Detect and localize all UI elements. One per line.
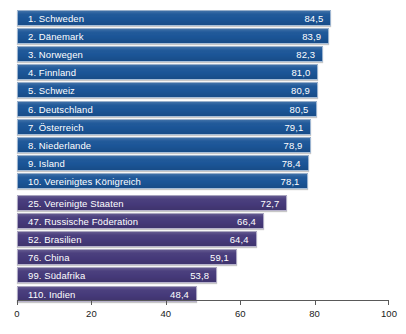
x-axis-tick-label: 0: [14, 308, 19, 319]
x-axis-tick: [17, 300, 18, 305]
bar-fill: 9. Island78,4: [17, 155, 309, 171]
bar-value-label: 78,9: [284, 138, 303, 153]
bar-category-label: 8. Niederlande: [28, 138, 91, 153]
x-axis-tick-label: 60: [235, 308, 246, 319]
bar-row[interactable]: 99. Südafrika53,8: [17, 267, 217, 283]
bar-fill: 8. Niederlande78,9: [17, 137, 311, 153]
bar-fill: 2. Dänemark83,9: [17, 28, 329, 44]
x-axis-tick: [315, 300, 316, 305]
bar-category-label: 2. Dänemark: [28, 29, 83, 44]
bar-row[interactable]: 7. Österreich79,1: [17, 119, 311, 135]
x-axis-line: [17, 300, 389, 301]
bar-category-label: 7. Österreich: [28, 120, 84, 135]
bar-row[interactable]: 52. Brasilien64,4: [17, 231, 257, 247]
bar-value-label: 66,4: [237, 214, 256, 229]
bar-category-label: 5. Schweiz: [28, 83, 75, 98]
bar-row[interactable]: 25. Vereinigte Staaten72,7: [17, 195, 287, 211]
x-axis-tick: [166, 300, 167, 305]
bar-value-label: 78,1: [281, 174, 300, 189]
bar-category-label: 10. Vereinigtes Königreich: [28, 174, 141, 189]
bar-value-label: 82,3: [296, 47, 315, 62]
bar-fill: 7. Österreich79,1: [17, 119, 311, 135]
bar-category-label: 52. Brasilien: [28, 232, 82, 247]
bar-fill: 5. Schweiz80,9: [17, 82, 318, 98]
bar-row[interactable]: 4. Finnland81,0: [17, 64, 318, 80]
bar-category-label: 99. Südafrika: [28, 268, 85, 283]
bar-value-label: 64,4: [230, 232, 249, 247]
x-axis-tick: [91, 300, 92, 305]
bar-value-label: 78,4: [282, 156, 301, 171]
bar-value-label: 80,9: [291, 83, 310, 98]
bar-fill: 3. Norwegen82,3: [17, 46, 323, 62]
bar-value-label: 53,8: [190, 268, 209, 283]
bar-category-label: 3. Norwegen: [28, 47, 83, 62]
bar-row[interactable]: 9. Island78,4: [17, 155, 309, 171]
bar-row[interactable]: 5. Schweiz80,9: [17, 82, 318, 98]
bar-row[interactable]: 3. Norwegen82,3: [17, 46, 323, 62]
x-axis: 020406080100: [0, 300, 406, 334]
bar-row[interactable]: 76. China59,1: [17, 249, 237, 265]
bar-row[interactable]: 47. Russische Föderation66,4: [17, 213, 264, 229]
bar-fill: 6. Deutschland80,5: [17, 101, 317, 117]
bar-value-label: 72,7: [261, 196, 280, 211]
bar-fill: 52. Brasilien64,4: [17, 231, 257, 247]
bar-fill: 99. Südafrika53,8: [17, 267, 217, 283]
bar-row[interactable]: 1. Schweden84,5: [17, 10, 331, 26]
bar-fill: 47. Russische Föderation66,4: [17, 213, 264, 229]
bar-category-label: 6. Deutschland: [28, 102, 93, 117]
x-axis-tick-label: 80: [309, 308, 320, 319]
bar-category-label: 4. Finnland: [28, 65, 76, 80]
bar-row[interactable]: 6. Deutschland80,5: [17, 101, 317, 117]
bar-row[interactable]: 10. Vereinigtes Königreich78,1: [17, 173, 308, 189]
bar-category-label: 1. Schweden: [28, 11, 84, 26]
bar-fill: 4. Finnland81,0: [17, 64, 318, 80]
x-axis-tick-label: 20: [86, 308, 97, 319]
bar-value-label: 79,1: [284, 120, 303, 135]
bar-category-label: 25. Vereinigte Staaten: [28, 196, 124, 211]
bar-fill: 1. Schweden84,5: [17, 10, 331, 26]
bars-area: 1. Schweden84,52. Dänemark83,93. Norwege…: [0, 0, 406, 300]
bar-chart: 1. Schweden84,52. Dänemark83,93. Norwege…: [0, 0, 406, 334]
bar-category-label: 76. China: [28, 250, 70, 265]
bar-row[interactable]: 8. Niederlande78,9: [17, 137, 311, 153]
bar-fill: 10. Vereinigtes Königreich78,1: [17, 173, 308, 189]
bar-value-label: 80,5: [290, 102, 309, 117]
x-axis-tick: [388, 300, 389, 305]
x-axis-tick: [240, 300, 241, 305]
bar-fill: 25. Vereinigte Staaten72,7: [17, 195, 287, 211]
bar-fill: 76. China59,1: [17, 249, 237, 265]
x-axis-tick-label: 40: [161, 308, 172, 319]
bar-category-label: 47. Russische Föderation: [28, 214, 138, 229]
x-axis-tick-label: 100: [381, 308, 397, 319]
bar-value-label: 59,1: [210, 250, 229, 265]
bar-value-label: 83,9: [302, 29, 321, 44]
bar-value-label: 81,0: [291, 65, 310, 80]
bar-value-label: 84,5: [304, 11, 323, 26]
bar-category-label: 9. Island: [28, 156, 65, 171]
bar-row[interactable]: 2. Dänemark83,9: [17, 28, 329, 44]
